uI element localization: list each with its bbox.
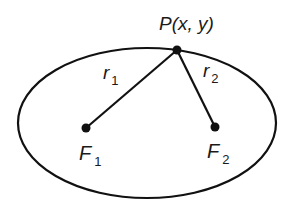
- segment-r2-label: r2: [203, 60, 219, 86]
- point-p-dot: [173, 46, 182, 55]
- point-label: P(x, y): [159, 13, 214, 34]
- ellipse: [18, 48, 276, 198]
- focus-f2-dot: [211, 123, 220, 132]
- ellipse-diagram: P(x, y) r1 r2 F1 F2: [0, 0, 292, 213]
- focus-f1-label: F1: [79, 142, 101, 169]
- segment-r1: [86, 50, 177, 128]
- focus-f1-dot: [82, 124, 91, 133]
- segment-r1-label: r1: [103, 62, 119, 88]
- focus-f2-label: F2: [207, 140, 229, 167]
